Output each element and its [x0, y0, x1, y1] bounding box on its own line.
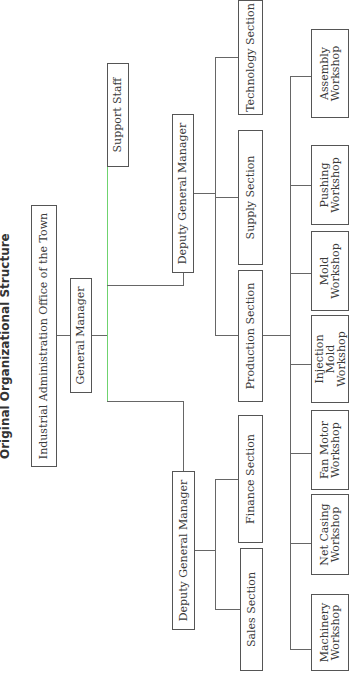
connector — [290, 273, 311, 274]
connector — [107, 401, 183, 402]
workshop-line2: Workshop — [330, 46, 341, 102]
node-production-section: Production Section — [238, 270, 263, 402]
workshop-line2: Workshop — [330, 243, 341, 299]
node-injection-mold-workshop: InjectionMold Workshop — [311, 315, 349, 403]
connector — [92, 335, 107, 336]
connector — [183, 401, 184, 471]
connector — [263, 335, 290, 336]
node-pushing-workshop: PushingWorkshop — [311, 145, 349, 225]
node-deputy-gm-left-label: Deputy General Manager — [178, 480, 190, 622]
node-machinery-workshop: MachineryWorkshop — [311, 594, 349, 671]
node-technology-section-label: Technology Section — [245, 3, 257, 112]
org-chart: Original Organizational Structure Indust… — [0, 0, 349, 691]
node-production-section-label: Production Section — [245, 283, 257, 390]
node-support-staff-label: Support Staff — [112, 78, 124, 153]
connector — [215, 335, 238, 336]
connector — [290, 76, 291, 650]
connector — [215, 609, 240, 610]
node-mold-workshop: MoldWorkshop — [311, 231, 349, 311]
node-deputy-gm-right: Deputy General Manager — [172, 114, 194, 273]
connector — [215, 197, 238, 198]
node-finance-section-label: Finance Section — [245, 434, 257, 524]
connector — [183, 273, 184, 286]
node-technology-section: Technology Section — [238, 0, 263, 115]
node-assembly-workshop: AssemblyWorkshop — [311, 29, 349, 118]
node-support-staff: Support Staff — [107, 63, 129, 167]
workshop-line2: Workshop — [330, 157, 341, 213]
node-general-manager-label: General Manager — [75, 287, 87, 385]
node-sales-section-label: Sales Section — [246, 572, 258, 647]
node-deputy-gm-left: Deputy General Manager — [172, 471, 195, 630]
node-general-manager: General Manager — [70, 278, 92, 393]
node-fan-motor-workshop: Fan MotorWorkshop — [311, 410, 349, 490]
connector — [290, 453, 311, 454]
node-supply-section-label: Supply Section — [245, 156, 257, 240]
node-sales-section: Sales Section — [240, 548, 263, 671]
node-finance-section: Finance Section — [238, 415, 263, 543]
connector — [194, 193, 215, 194]
connector — [215, 479, 238, 480]
chart-title: Original Organizational Structure — [0, 233, 12, 459]
workshop-line2: Mold Workshop — [325, 316, 347, 402]
connector — [195, 550, 215, 551]
connector — [290, 543, 311, 544]
node-office-label: Industrial Administration Office of the … — [38, 213, 50, 459]
workshop-line2: Workshop — [330, 503, 341, 565]
node-deputy-gm-right-label: Deputy General Manager — [177, 123, 189, 265]
connector — [290, 364, 311, 365]
connector — [215, 57, 238, 58]
connector — [290, 76, 311, 77]
connector — [107, 285, 183, 286]
node-supply-section: Supply Section — [238, 130, 263, 265]
workshop-line2: Workshop — [330, 603, 341, 663]
workshop-line1: Injection — [314, 316, 325, 402]
connector — [215, 479, 216, 610]
connector — [290, 185, 311, 186]
workshop-line2: Workshop — [330, 421, 341, 479]
connector — [57, 335, 70, 336]
node-net-casing-workshop: Net CasingWorkshop — [311, 494, 349, 575]
node-office: Industrial Administration Office of the … — [31, 205, 57, 467]
connector — [290, 649, 311, 650]
